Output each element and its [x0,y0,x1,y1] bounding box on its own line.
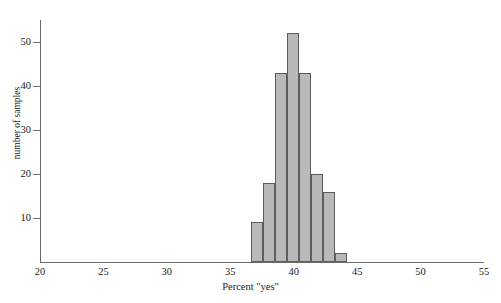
histogram-chart: 1020304050 2025303540455055 number of sa… [0,0,501,303]
x-tick-label: 35 [210,266,250,278]
y-tick-label: 10 [5,213,31,223]
histogram-bar [323,192,335,262]
histogram-bar [299,73,311,262]
histogram-bar [287,33,299,262]
plot-area: 1020304050 2025303540455055 number of sa… [0,0,501,303]
y-axis-title: number of samples [12,68,22,178]
y-tick-mark [33,42,40,43]
y-tick-mark [33,174,40,175]
y-tick-label: 50 [5,37,31,47]
x-tick-label: 40 [274,266,314,278]
x-tick-label: 55 [464,266,501,278]
x-axis-title: Percent "yes" [0,281,501,292]
y-tick-mark [33,130,40,131]
histogram-bar [263,183,275,262]
x-tick-label: 50 [401,266,441,278]
histogram-bar [275,73,287,262]
x-tick-label: 20 [20,266,60,278]
histogram-bar [251,222,263,262]
histogram-bar [311,174,323,262]
y-tick-mark [33,218,40,219]
x-axis-line [40,262,484,263]
histogram-bar [335,253,347,262]
x-tick-label: 45 [337,266,377,278]
y-axis-line [40,20,41,263]
x-tick-label: 25 [83,266,123,278]
y-tick-mark [33,86,40,87]
x-tick-label: 30 [147,266,187,278]
